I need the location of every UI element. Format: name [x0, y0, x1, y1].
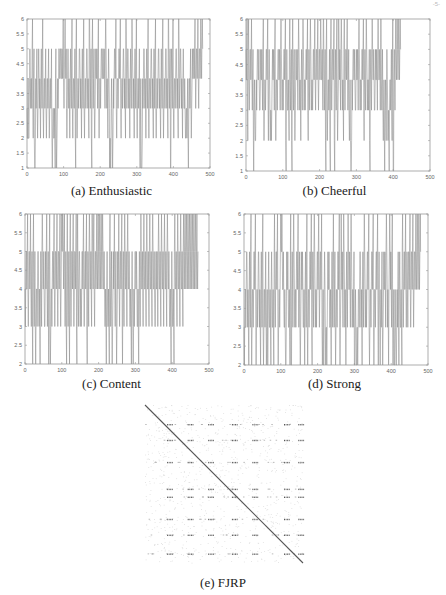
x-tick-label: 300: [132, 171, 141, 177]
main-diagonal: [145, 405, 303, 563]
chart-fjrp: (e) FJRP: [0, 395, 446, 595]
y-tick-label: 5: [238, 249, 241, 255]
x-tick-label: 400: [389, 174, 398, 180]
y-tick-label: 4: [240, 77, 243, 83]
chart-cheerful: 11.522.533.544.555.560100200300400500 (b…: [223, 0, 446, 200]
y-tick-label: 1: [21, 165, 24, 171]
y-tick-label: 2: [21, 135, 24, 141]
caption-strong: (d) Strong: [223, 376, 446, 392]
x-tick-label: 500: [204, 367, 213, 373]
series-line: [244, 214, 421, 365]
y-tick-label: 3: [21, 105, 24, 111]
x-tick-label: 400: [168, 367, 177, 373]
y-tick-label: 4: [238, 287, 241, 293]
y-tick-label: 5.5: [233, 230, 241, 236]
y-tick-label: 5: [240, 46, 243, 52]
x-tick-label: 100: [59, 171, 68, 177]
caption-enthusiastic: (a) Enthusiastic: [0, 183, 223, 199]
y-tick-label: 2: [19, 361, 22, 367]
y-tick-label: 3: [19, 324, 22, 330]
y-tick-label: 4.5: [235, 62, 243, 68]
x-tick-label: 200: [96, 171, 105, 177]
y-tick-label: 3.5: [233, 305, 241, 311]
x-tick-label: 500: [423, 368, 432, 374]
chart-content-plot: 22.533.544.555.560100200300400500: [0, 200, 223, 395]
y-tick-label: 2.5: [16, 120, 24, 126]
y-tick-label: 3.5: [235, 92, 243, 98]
series-line: [25, 214, 198, 364]
y-tick-label: 5.5: [14, 230, 22, 236]
series-line: [246, 19, 401, 171]
y-tick-label: 1.5: [235, 153, 243, 159]
chart-enthusiastic-plot: 11.522.533.544.555.560100200300400500: [0, 0, 223, 200]
x-tick-label: 0: [25, 171, 28, 177]
y-tick-label: 2.5: [235, 122, 243, 128]
y-tick-label: 5.5: [235, 31, 243, 37]
y-tick-label: 4.5: [16, 61, 24, 67]
x-tick-label: 0: [23, 367, 26, 373]
x-tick-label: 100: [276, 368, 285, 374]
y-tick-label: 1: [240, 168, 243, 174]
y-tick-label: 5: [21, 46, 24, 52]
y-tick-label: 3.5: [16, 91, 24, 97]
chart-strong-plot: 22.533.544.555.560100200300400500: [223, 200, 446, 395]
y-tick-label: 2: [238, 362, 241, 368]
caption-content: (c) Content: [0, 376, 223, 392]
chart-cheerful-plot: 11.522.533.544.555.560100200300400500: [223, 0, 446, 200]
y-tick-label: 5: [19, 249, 22, 255]
chart-strong: 22.533.544.555.560100200300400500 (d) St…: [223, 200, 446, 395]
chart-content: 22.533.544.555.560100200300400500 (c) Co…: [0, 200, 223, 395]
y-tick-label: 6: [21, 16, 24, 22]
y-tick-label: 4: [21, 76, 24, 82]
x-tick-label: 500: [425, 174, 434, 180]
y-tick-label: 5.5: [16, 31, 24, 37]
series-line: [27, 19, 203, 168]
x-tick-label: 300: [352, 174, 361, 180]
fjrp-recurrence-plot: [0, 395, 446, 575]
x-tick-label: 200: [315, 174, 324, 180]
caption-fjrp: (e) FJRP: [0, 575, 446, 591]
y-tick-label: 2: [240, 138, 243, 144]
chart-enthusiastic: 11.522.533.544.555.560100200300400500 (a…: [0, 0, 223, 200]
x-tick-label: 500: [205, 171, 214, 177]
y-tick-label: 2.5: [14, 342, 22, 348]
x-tick-label: 300: [131, 367, 140, 373]
x-tick-label: 100: [57, 367, 66, 373]
x-tick-label: 400: [387, 368, 396, 374]
y-tick-label: 6: [238, 211, 241, 217]
x-tick-label: 200: [94, 367, 103, 373]
y-tick-label: 2.5: [233, 343, 241, 349]
y-tick-label: 4: [19, 286, 22, 292]
y-tick-label: 3.5: [14, 305, 22, 311]
x-tick-label: 0: [244, 174, 247, 180]
x-tick-label: 100: [278, 174, 287, 180]
x-tick-label: 300: [350, 368, 359, 374]
y-tick-label: 6: [240, 16, 243, 22]
x-tick-label: 400: [169, 171, 178, 177]
x-tick-label: 200: [313, 368, 322, 374]
caption-cheerful: (b) Cheerful: [223, 183, 446, 199]
x-tick-label: 0: [242, 368, 245, 374]
y-tick-label: 3: [240, 107, 243, 113]
y-tick-label: 1.5: [16, 150, 24, 156]
y-tick-label: 4.5: [233, 268, 241, 274]
y-tick-label: 6: [19, 211, 22, 217]
y-tick-label: 3: [238, 324, 241, 330]
y-tick-label: 4.5: [14, 267, 22, 273]
